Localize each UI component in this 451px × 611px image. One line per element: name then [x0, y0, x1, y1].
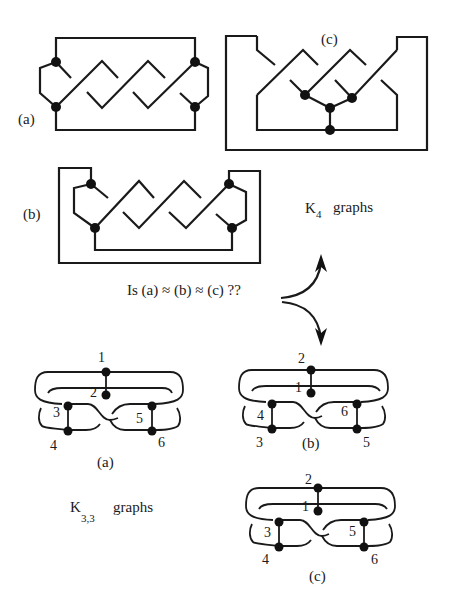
k33-b-label: (b)	[302, 435, 320, 452]
vertex	[86, 179, 96, 189]
vertex	[353, 425, 362, 434]
vertex	[148, 427, 157, 436]
vertex	[307, 366, 316, 375]
k33-caption: K 3,3 graphs	[70, 499, 153, 524]
vertex	[360, 518, 369, 527]
vertex	[90, 223, 100, 233]
svg-text:3,3: 3,3	[81, 512, 95, 524]
question-text: Is (a) ≈ (b) ≈ (c) ??	[127, 282, 241, 299]
vertex	[102, 391, 111, 400]
svg-text:K: K	[70, 499, 81, 515]
svg-text:graphs: graphs	[333, 199, 373, 215]
svg-text:5: 5	[363, 435, 370, 450]
svg-text:1: 1	[302, 499, 309, 514]
vertex	[360, 543, 369, 552]
vertex	[51, 57, 61, 67]
vertex	[353, 400, 362, 409]
svg-text:2: 2	[305, 472, 312, 487]
svg-text:6: 6	[158, 435, 165, 450]
k4-a-label: (a)	[18, 111, 35, 128]
arrow-up-icon	[315, 254, 327, 272]
svg-text:6: 6	[341, 404, 348, 419]
vertex	[227, 223, 237, 233]
vertex	[275, 518, 284, 527]
vertex	[64, 402, 73, 411]
vertex	[314, 507, 323, 516]
vertex	[102, 368, 111, 377]
k33-graph-c: 2 1 3 4 5 6 (c)	[246, 472, 395, 585]
svg-text:6: 6	[371, 552, 378, 567]
svg-text:5: 5	[136, 411, 143, 426]
k33-graph-b: 2 1 4 3 6 5 (b)	[239, 351, 388, 452]
svg-text:K: K	[305, 200, 316, 216]
vertex	[190, 57, 200, 67]
k33-c-label: (c)	[309, 568, 326, 585]
vertex	[64, 427, 73, 436]
vertex	[275, 543, 284, 552]
figure-canvas: (a) (c) (b) K 4 graphs	[0, 0, 451, 611]
k4-graph-a: (a)	[18, 38, 208, 130]
k4-graph-c: (c)	[226, 31, 427, 150]
svg-text:3: 3	[264, 525, 271, 540]
svg-text:3: 3	[256, 435, 263, 450]
svg-text:4: 4	[262, 552, 269, 567]
k4-c-label: (c)	[321, 31, 338, 48]
vertex	[314, 484, 323, 493]
svg-text:4: 4	[257, 408, 264, 423]
vertex	[347, 93, 357, 103]
k33-graph-a: 1 2 3 4 5 6 (a)	[35, 350, 183, 471]
svg-text:2: 2	[90, 385, 97, 400]
svg-text:graphs: graphs	[113, 499, 153, 515]
branching-arrows	[281, 254, 327, 346]
k4-graph-b: (b)	[23, 168, 260, 263]
vertex	[224, 179, 234, 189]
arrow-down-icon	[315, 328, 327, 346]
k4-caption: K 4 graphs	[305, 199, 373, 220]
svg-text:4: 4	[50, 438, 57, 453]
vertex	[190, 102, 200, 112]
svg-text:4: 4	[316, 208, 322, 220]
svg-text:1: 1	[295, 380, 302, 395]
vertex	[307, 389, 316, 398]
k4-b-label: (b)	[23, 206, 41, 223]
vertex	[268, 425, 277, 434]
svg-text:3: 3	[53, 405, 60, 420]
vertex	[148, 402, 157, 411]
vertex	[325, 125, 335, 135]
svg-text:2: 2	[298, 351, 305, 366]
vertex	[268, 400, 277, 409]
vertex	[325, 103, 335, 113]
vertex	[51, 102, 61, 112]
vertex	[300, 90, 310, 100]
svg-text:5: 5	[349, 524, 356, 539]
k33-a-label: (a)	[97, 454, 114, 471]
svg-text:1: 1	[98, 350, 105, 365]
